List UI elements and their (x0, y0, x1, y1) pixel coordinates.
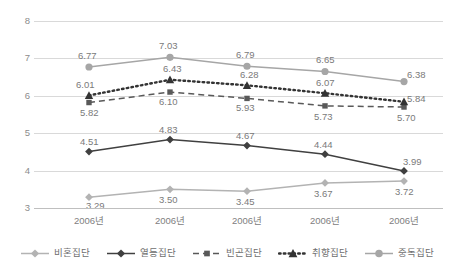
data-label-4-0: 6.77 (78, 51, 97, 61)
plot-area: 3.293.503.453.673.724.514.834.674.443.99… (34, 21, 443, 208)
data-label-1-1: 4.83 (159, 125, 178, 135)
legend-label-2: 빈곤집단 (226, 248, 262, 258)
legend-swatch-diamond-icon (20, 248, 50, 259)
y-tick-label-8: 8 (4, 16, 30, 26)
legend-swatch-diamond-icon (106, 248, 136, 259)
legend-item-1[interactable]: 열등집단 (106, 248, 176, 259)
data-label-3-1: 6.43 (163, 64, 182, 74)
data-label-4-2: 6.79 (236, 50, 255, 60)
data-label-4-1: 7.03 (159, 41, 178, 51)
data-point-2-0 (86, 100, 91, 105)
data-point-1-4 (400, 167, 408, 175)
series-1 (85, 136, 408, 175)
data-point-4-0 (85, 63, 92, 70)
y-tick-label-3: 3 (4, 203, 30, 213)
legend-item-2[interactable]: 빈곤집단 (192, 248, 262, 259)
data-point-4-1 (166, 54, 173, 61)
data-point-1-1 (166, 136, 174, 144)
data-point-1-0 (85, 148, 93, 156)
data-label-0-0: 3.29 (86, 201, 105, 211)
legend-label-1: 열등집단 (140, 248, 176, 258)
legend-label-3: 취향집단 (312, 248, 348, 258)
data-point-2-1 (167, 89, 172, 94)
data-label-2-0: 5.82 (80, 108, 99, 118)
legend-label-4: 중독집단 (398, 248, 434, 258)
data-label-3-2: 6.28 (240, 70, 259, 80)
data-label-1-3: 4.44 (314, 140, 333, 150)
data-label-2-3: 5.73 (314, 112, 333, 122)
data-label-1-0: 4.51 (80, 137, 99, 147)
y-tick-label-4: 4 (4, 166, 30, 176)
y-tick-label-6: 6 (4, 91, 30, 101)
legend-item-3[interactable]: 취향집단 (278, 248, 348, 259)
data-point-4-3 (321, 68, 328, 75)
data-label-2-1: 6.10 (159, 97, 178, 107)
data-point-0-3 (321, 179, 329, 187)
x-tick-label-2: 2006년 (217, 216, 277, 226)
data-label-3-4: 5.84 (407, 94, 426, 104)
legend-item-4[interactable]: 중독집단 (364, 248, 434, 259)
data-point-3-0 (85, 91, 93, 99)
x-tick-label-4: 2006년 (374, 216, 434, 226)
data-point-2-3 (322, 103, 327, 108)
data-point-1-3 (321, 150, 329, 158)
data-label-3-3: 6.07 (316, 78, 335, 88)
data-label-1-4: 3.99 (403, 157, 422, 167)
legend-label-0: 비혼집단 (54, 248, 90, 258)
data-label-0-4: 3.72 (395, 187, 414, 197)
data-label-2-2: 5.93 (236, 103, 255, 113)
data-point-0-2 (243, 187, 251, 195)
data-point-0-4 (400, 177, 408, 185)
x-tick-label-3: 2006년 (295, 216, 355, 226)
legend-swatch-circle-icon (364, 248, 394, 259)
data-label-0-3: 3.67 (314, 189, 333, 199)
data-point-0-1 (166, 185, 174, 193)
y-tick-label-7: 7 (4, 53, 30, 63)
data-label-1-2: 4.67 (236, 131, 255, 141)
chart-legend: 비혼집단열등집단빈곤집단취향집단중독집단 (0, 243, 453, 263)
data-label-0-1: 3.50 (159, 195, 178, 205)
x-tick-label-1: 2006년 (140, 216, 200, 226)
line-chart: 3.293.503.453.673.724.514.834.674.443.99… (0, 0, 453, 274)
data-point-2-2 (244, 96, 249, 101)
x-axis-line (34, 208, 443, 209)
data-label-2-4: 5.70 (397, 113, 416, 123)
data-label-4-4: 6.38 (407, 70, 426, 80)
legend-swatch-square-icon (192, 248, 222, 259)
data-point-1-2 (243, 142, 251, 150)
data-label-4-3: 6.65 (316, 55, 335, 65)
y-tick-label-5: 5 (4, 128, 30, 138)
data-label-3-0: 6.01 (76, 80, 95, 90)
legend-swatch-triangle-icon (278, 248, 308, 259)
data-label-0-2: 3.45 (236, 197, 255, 207)
x-tick-label-0: 2006년 (59, 216, 119, 226)
legend-item-0[interactable]: 비혼집단 (20, 248, 90, 259)
